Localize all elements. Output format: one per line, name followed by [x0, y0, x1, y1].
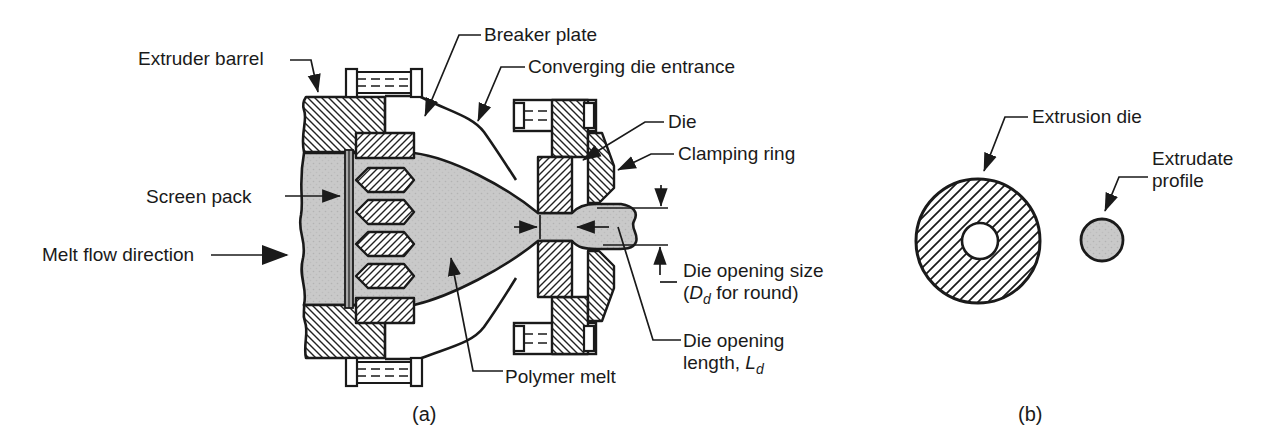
- label-die: Die: [668, 111, 697, 133]
- label-clamping-ring: Clamping ring: [678, 143, 795, 165]
- caption-a: (a): [412, 403, 436, 426]
- label-screen-pack: Screen pack: [146, 186, 252, 208]
- barrel-flange-bolt-bottom: [346, 358, 422, 386]
- label-die-opening-length: Die opening length, Ld: [683, 330, 784, 374]
- leader-extrudate-profile: [1105, 177, 1148, 211]
- extrusion-die-front-view: [916, 179, 1040, 303]
- label-melt-flow-direction: Melt flow direction: [42, 244, 194, 266]
- label-converging-die-entrance: Converging die entrance: [528, 56, 735, 78]
- label-polymer-melt: Polymer melt: [505, 366, 616, 388]
- label-breaker-plate: Breaker plate: [484, 24, 597, 46]
- extrudate-profile-shape: [1081, 219, 1123, 261]
- leader-clamping-ring: [618, 154, 674, 170]
- leader-extrusion-die: [984, 117, 1028, 171]
- figure-extrusion-die-diagram: Extruder barrel Breaker plate Converging…: [0, 0, 1281, 444]
- caption-b: (b): [1018, 403, 1042, 426]
- screen-pack-shape: [345, 150, 353, 308]
- label-extrudate-profile: Extrudate profile: [1152, 148, 1233, 192]
- label-extruder-barrel: Extruder barrel: [138, 48, 264, 70]
- leader-extruder-barrel: [290, 60, 318, 92]
- label-die-opening-size: Die opening size (Dd for round): [683, 260, 823, 304]
- label-extrusion-die: Extrusion die: [1032, 106, 1142, 128]
- barrel-flange-bolt-top: [346, 69, 422, 97]
